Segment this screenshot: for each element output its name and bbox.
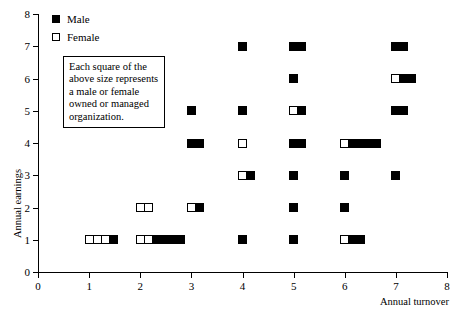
female-square-icon: [52, 33, 60, 41]
legend-label-female: Female: [67, 32, 99, 43]
x-tick: [140, 272, 141, 278]
y-tick-label: 4: [20, 138, 30, 149]
y-tick-label: 5: [20, 105, 30, 116]
data-marker-male: [297, 106, 306, 115]
marker-note-box: Each square of the above size represents…: [63, 56, 165, 128]
x-tick: [396, 272, 397, 278]
data-marker-male: [195, 139, 204, 148]
data-marker-male: [289, 203, 298, 212]
data-marker-male: [356, 235, 365, 244]
y-tick-label: 0: [20, 267, 30, 278]
x-tick-label: 3: [189, 281, 195, 292]
y-tick: [33, 14, 39, 15]
x-tick: [89, 272, 90, 278]
x-tick-label: 2: [138, 281, 144, 292]
x-tick-label: 6: [342, 281, 348, 292]
data-marker-male: [109, 235, 118, 244]
x-tick: [191, 272, 192, 278]
data-marker-male: [238, 106, 247, 115]
data-marker-male: [399, 106, 408, 115]
x-tick-label: 4: [240, 281, 246, 292]
data-marker-male: [289, 235, 298, 244]
x-tick: [345, 272, 346, 278]
data-marker-female: [238, 139, 247, 148]
data-marker-male: [289, 171, 298, 180]
data-marker-male: [238, 235, 247, 244]
legend-item-male: Male: [52, 10, 99, 28]
x-tick-label: 8: [444, 281, 450, 292]
x-tick: [447, 272, 448, 278]
y-tick: [33, 208, 39, 209]
y-tick-label: 6: [20, 73, 30, 84]
y-tick-label: 8: [20, 9, 30, 20]
data-marker-male: [238, 42, 247, 51]
scatter-plot: 012345678012345678 Annual turnover Annua…: [0, 0, 455, 314]
x-tick-label: 1: [86, 281, 92, 292]
x-tick: [243, 272, 244, 278]
data-marker-male: [289, 74, 298, 83]
data-marker-male: [187, 106, 196, 115]
y-tick: [33, 272, 39, 273]
data-marker-male: [391, 171, 400, 180]
y-tick: [33, 175, 39, 176]
data-marker-male: [297, 42, 306, 51]
y-axis-title: Annual earnings: [12, 149, 23, 259]
x-tick-label: 0: [35, 281, 41, 292]
male-square-icon: [52, 15, 60, 23]
x-tick-label: 7: [393, 281, 399, 292]
data-marker-male: [340, 203, 349, 212]
x-axis-title: Annual turnover: [380, 296, 449, 307]
y-tick: [33, 240, 39, 241]
data-marker-male: [195, 203, 204, 212]
legend-label-male: Male: [67, 14, 90, 25]
data-marker-male: [399, 42, 408, 51]
data-marker-male: [176, 235, 185, 244]
data-marker-male: [297, 139, 306, 148]
legend-item-female: Female: [52, 28, 99, 46]
y-tick: [33, 46, 39, 47]
legend: Male Female: [52, 10, 99, 46]
data-marker-male: [407, 74, 416, 83]
data-marker-male: [246, 171, 255, 180]
data-marker-female: [144, 203, 153, 212]
y-tick: [33, 79, 39, 80]
data-marker-male: [340, 171, 349, 180]
y-tick: [33, 111, 39, 112]
x-tick: [294, 272, 295, 278]
x-tick-label: 5: [291, 281, 297, 292]
data-marker-male: [372, 139, 381, 148]
y-tick: [33, 143, 39, 144]
y-tick-label: 7: [20, 41, 30, 52]
